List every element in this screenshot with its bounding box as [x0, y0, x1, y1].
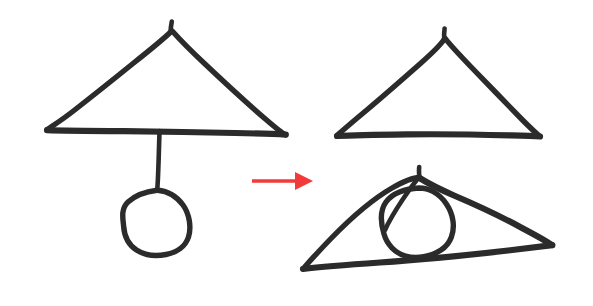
transformation-arrow: [252, 172, 313, 190]
left-triangle-base-edge: [47, 130, 286, 134]
right-top-figure-triangle-only: [337, 29, 540, 137]
pendulum-circle: [123, 190, 190, 255]
left-triangle-apex-tick: [171, 22, 172, 32]
transformation-diagram: [0, 0, 593, 306]
right-bottom-triangle-top-edge: [420, 178, 553, 245]
right-top-triangle-base-edge: [337, 134, 540, 136]
arrow-head-icon: [295, 172, 313, 190]
left-triangle-left-edge: [48, 32, 172, 130]
right-top-triangle-right-edge: [445, 39, 539, 137]
inscribed-circle: [381, 188, 453, 257]
pendulum-line: [157, 131, 159, 190]
left-figure-triangle-with-pendulum-circle: [47, 22, 286, 256]
sketch-canvas: Hand-drawn sketch: a triangle with a cir…: [0, 0, 593, 306]
right-top-triangle-left-edge: [338, 39, 445, 135]
left-triangle-right-edge: [172, 31, 285, 135]
right-bottom-figure-tilted-triangle-with-circle: [303, 167, 552, 269]
